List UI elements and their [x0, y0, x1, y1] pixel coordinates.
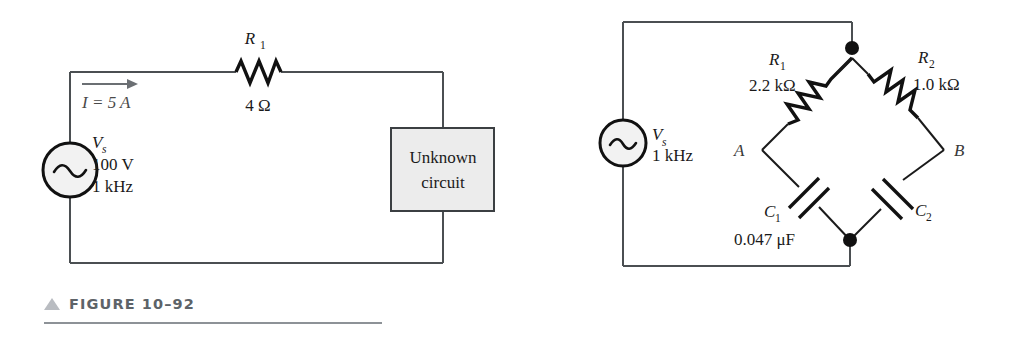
capacitor-c1-label-sub: 1: [775, 212, 781, 224]
caption-divider-left: [44, 322, 382, 324]
node-label-a: A: [733, 141, 745, 160]
triangle-up-icon: [44, 298, 60, 310]
figure-caption-left: FIGURE 10–92: [44, 296, 382, 312]
node-dot-bottom: [843, 233, 857, 247]
source-label-sub: s: [102, 143, 107, 155]
resistor-r2-label: R: [917, 48, 929, 67]
current-label: I = 5 A: [81, 93, 131, 112]
circuit-diagram-series: V s 100 V 1 kHz I = 5 A R 1 4 Ω Unknown …: [0, 0, 506, 290]
wire-r1-to-top-node: [837, 58, 852, 73]
unknown-circuit-line2: circuit: [421, 173, 465, 192]
source-frequency-value: 1 kHz: [92, 177, 134, 196]
source-frequency-value: 1 kHz: [652, 146, 694, 165]
figure-caption-text: FIGURE 10–92: [69, 296, 195, 312]
unknown-circuit-box: [391, 128, 494, 211]
wire-a-to-r1: [762, 124, 788, 150]
capacitor-c2-label-sub: 2: [926, 211, 932, 223]
circuit-diagram-bridge: V s 1 kHz R 1 2.2 kΩ R 2 1.0 kΩ C 1 0.04…: [506, 0, 1013, 290]
resistor-r1-label: R: [768, 50, 780, 69]
resistor-r1-label: R: [244, 29, 256, 48]
resistor-r1-label-sub: 1: [260, 39, 266, 51]
capacitor-c1-value: 0.047 μF: [734, 230, 795, 249]
unknown-circuit-line1: Unknown: [409, 148, 477, 167]
resistor-r1-value: 2.2 kΩ: [749, 76, 796, 95]
figure-10-93-panel: V s 1 kHz R 1 2.2 kΩ R 2 1.0 kΩ C 1 0.04…: [506, 0, 1013, 348]
wire-r2-to-b: [918, 118, 944, 150]
resistor-r1-symbol: [236, 61, 281, 83]
resistor-r2-label-sub: 2: [929, 58, 935, 70]
wire-a-to-c1: [762, 150, 799, 187]
wire-top-node-to-r2: [852, 58, 868, 74]
resistor-r1-value: 4 Ω: [245, 96, 270, 115]
resistor-r2-symbol: [868, 70, 918, 118]
node-label-b: B: [954, 141, 965, 160]
resistor-r1-label-sub: 1: [780, 60, 786, 72]
resistor-r2-value: 1.0 kΩ: [913, 75, 960, 94]
node-dot-top: [845, 41, 859, 55]
figure-10-92-panel: V s 100 V 1 kHz I = 5 A R 1 4 Ω Unknown …: [0, 0, 506, 348]
wire-c2-to-b: [903, 150, 944, 180]
source-voltage-value: 100 V: [92, 155, 134, 174]
current-arrow-head: [127, 79, 138, 89]
